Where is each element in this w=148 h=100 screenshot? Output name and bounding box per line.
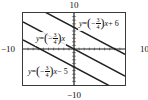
eq-mid-denominator: 4 bbox=[53, 38, 58, 45]
axis-label-left: −10 bbox=[1, 45, 15, 54]
axis-label-bottom: −10 bbox=[0, 91, 148, 100]
eq-bot-close-paren: ) bbox=[50, 64, 54, 78]
equation-label-line-bottom: y=(−34)x− 5 bbox=[27, 65, 69, 79]
eq-bot-open-paren: ( bbox=[36, 64, 40, 78]
graph-figure: 10 −10 10 −10 bbox=[0, 0, 148, 100]
eq-top-close-paren: ) bbox=[101, 16, 105, 30]
eq-bot-constant: − 5 bbox=[57, 67, 68, 76]
eq-mid-variable: x bbox=[62, 34, 66, 43]
eq-mid-close-paren: ) bbox=[58, 31, 62, 45]
eq-bot-denominator: 4 bbox=[45, 71, 50, 78]
equation-label-line-top: y=(−34)x+ 6 bbox=[78, 17, 120, 31]
eq-bot-fraction: 34 bbox=[45, 65, 50, 79]
equation-label-line-middle: y=(−34)x bbox=[35, 32, 66, 46]
axis-label-top: 10 bbox=[0, 1, 148, 10]
plot-area: y=(−34)x+ 6 y=(−34)x y=(−34)x− 5 bbox=[22, 12, 126, 86]
axis-label-right: 10 bbox=[140, 45, 148, 54]
eq-mid-open-paren: ( bbox=[44, 31, 48, 45]
eq-top-open-paren: ( bbox=[87, 16, 91, 30]
eq-mid-fraction: 34 bbox=[53, 32, 58, 46]
eq-top-denominator: 4 bbox=[96, 23, 101, 30]
eq-top-fraction: 34 bbox=[96, 17, 101, 31]
eq-top-constant: + 6 bbox=[108, 19, 119, 28]
